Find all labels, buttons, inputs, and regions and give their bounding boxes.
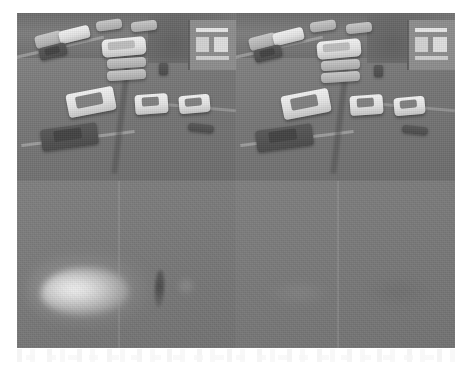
- vehicle-white-car: [135, 93, 169, 115]
- vehicle-white-car: [349, 94, 383, 116]
- building-window: [196, 37, 209, 52]
- vehicle-parked: [321, 70, 361, 83]
- vehicle-parked: [106, 69, 146, 82]
- panel-top-right: [236, 13, 455, 181]
- response-map: [236, 181, 455, 348]
- building-window: [415, 28, 447, 33]
- panel-grid: [17, 13, 455, 348]
- vehicle-light-car: [393, 96, 425, 117]
- dark-streak: [154, 269, 165, 307]
- vehicle-dark-car: [254, 123, 313, 153]
- vehicle-dark-car: [40, 122, 99, 152]
- building-window: [196, 28, 228, 33]
- traffic-scene: [17, 13, 236, 181]
- faint-response: [175, 278, 197, 294]
- panel-top-left: [17, 13, 236, 181]
- building: [188, 20, 236, 70]
- building-window: [433, 37, 447, 52]
- building-window: [415, 56, 448, 60]
- vehicle-distant: [402, 124, 429, 135]
- vehicle-distant: [187, 123, 214, 134]
- vehicle-light-car: [178, 94, 210, 115]
- building: [407, 20, 455, 70]
- building-window: [214, 37, 228, 52]
- panel-bottom-right: [236, 181, 455, 348]
- building-window: [196, 56, 229, 60]
- figure-root: [0, 0, 472, 366]
- figure-caption: [0, 0, 1, 1]
- bright-blob: [41, 268, 129, 315]
- vehicle-white-sedan: [280, 88, 332, 120]
- vehicle-parked: [321, 59, 361, 72]
- pedestrian: [374, 65, 383, 77]
- panel-bottom-left: [17, 181, 236, 348]
- faint-response: [367, 278, 428, 305]
- traffic-scene: [236, 13, 455, 181]
- pedestrian: [159, 63, 168, 75]
- faint-response: [267, 281, 333, 304]
- response-map: [17, 181, 236, 348]
- sensor-noise: [236, 181, 455, 348]
- building-window: [415, 37, 428, 52]
- vehicle-parked: [106, 57, 146, 70]
- map-seam: [337, 181, 339, 348]
- vehicle-white-sedan: [66, 86, 118, 118]
- scan-residue-strip: [17, 349, 455, 362]
